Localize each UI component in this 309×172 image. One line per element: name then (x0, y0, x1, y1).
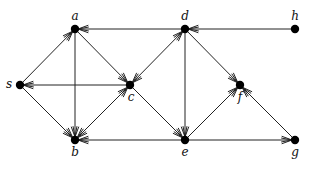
edges-layer (20, 25, 295, 144)
edge-b-c (75, 85, 130, 140)
node-label-b: b (71, 145, 79, 159)
labels-layer: adhscfbeg (6, 9, 299, 159)
edge-a-s (20, 29, 75, 85)
directed-graph: adhscfbeg (0, 0, 309, 172)
node-label-g: g (291, 145, 299, 159)
edge-c-d (130, 29, 185, 85)
node-b (71, 136, 79, 144)
edge-d-f (185, 29, 240, 85)
node-s (16, 81, 24, 89)
node-h (291, 25, 299, 33)
edge-a-c (75, 29, 130, 85)
node-label-a: a (71, 9, 78, 23)
node-a (71, 25, 79, 33)
node-f (236, 81, 244, 89)
node-c (126, 81, 134, 89)
node-e (181, 136, 189, 144)
node-label-d: d (181, 9, 189, 23)
node-g (291, 136, 299, 144)
edge-f-g (240, 85, 295, 140)
edge-c-e (130, 85, 185, 140)
node-d (181, 25, 189, 33)
node-label-f: f (237, 90, 245, 104)
edge-b-s (20, 85, 75, 140)
edge-e-f (185, 85, 240, 140)
node-label-c: c (128, 90, 135, 104)
node-label-e: e (181, 145, 188, 159)
node-label-h: h (291, 9, 299, 23)
node-label-s: s (6, 77, 12, 91)
